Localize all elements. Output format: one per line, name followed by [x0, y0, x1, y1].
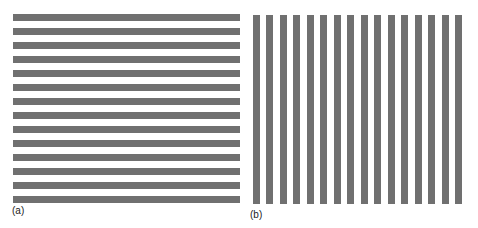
- grating-stripe: [374, 15, 381, 204]
- grating-stripe: [13, 28, 240, 35]
- grating-stripe: [13, 14, 240, 21]
- grating-stripe: [347, 15, 354, 204]
- grating-stripe: [334, 15, 341, 204]
- grating-stripe: [455, 15, 462, 204]
- grating-stripe: [293, 15, 300, 204]
- grating-stripe: [415, 15, 422, 204]
- grating-stripe: [280, 15, 287, 204]
- grating-stripe: [13, 112, 240, 119]
- grating-stripe: [442, 15, 449, 204]
- grating-stripe: [13, 154, 240, 161]
- grating-stripe: [428, 15, 435, 204]
- grating-stripe: [13, 182, 240, 189]
- grating-stripe: [13, 42, 240, 49]
- panel-a-label: (a): [12, 206, 24, 216]
- grating-stripe: [253, 15, 260, 204]
- grating-stripe: [266, 15, 273, 204]
- grating-stripe: [401, 15, 408, 204]
- grating-stripe: [13, 84, 240, 91]
- grating-stripe: [320, 15, 327, 204]
- grating-stripe: [13, 196, 240, 203]
- grating-stripe: [13, 98, 240, 105]
- grating-stripe: [13, 126, 240, 133]
- grating-stripe: [13, 56, 240, 63]
- grating-stripe: [13, 140, 240, 147]
- grating-stripe: [13, 70, 240, 77]
- grating-stripe: [13, 168, 240, 175]
- panel-b-label: (b): [250, 210, 262, 220]
- grating-stripe: [307, 15, 314, 204]
- grating-stripe: [388, 15, 395, 204]
- grating-stripe: [361, 15, 368, 204]
